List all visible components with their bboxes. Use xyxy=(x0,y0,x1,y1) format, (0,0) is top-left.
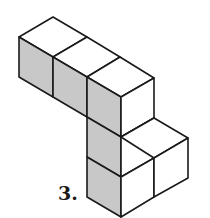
cube-solid-diagram xyxy=(0,0,210,218)
figure-label: 3. xyxy=(58,182,78,204)
